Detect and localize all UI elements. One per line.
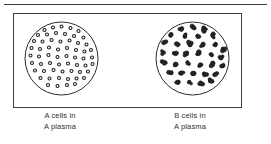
dish-drawing-left (24, 20, 99, 97)
caption-right: B cells in A plasma (140, 111, 240, 132)
caption-right-line-1: B cells in (140, 111, 240, 122)
agglutination-figure: A cells in A plasma B cells in A plasma (0, 0, 271, 144)
dish-drawing-right (155, 20, 230, 97)
diagram-frame (13, 13, 242, 108)
caption-left: A cells in A plasma (10, 111, 110, 132)
petri-dish-right (155, 20, 230, 97)
caption-right-line-2: A plasma (140, 122, 240, 133)
top-divider-rule (4, 4, 267, 5)
caption-left-line-2: A plasma (10, 122, 110, 133)
petri-dish-left (24, 20, 99, 97)
caption-left-line-1: A cells in (10, 111, 110, 122)
